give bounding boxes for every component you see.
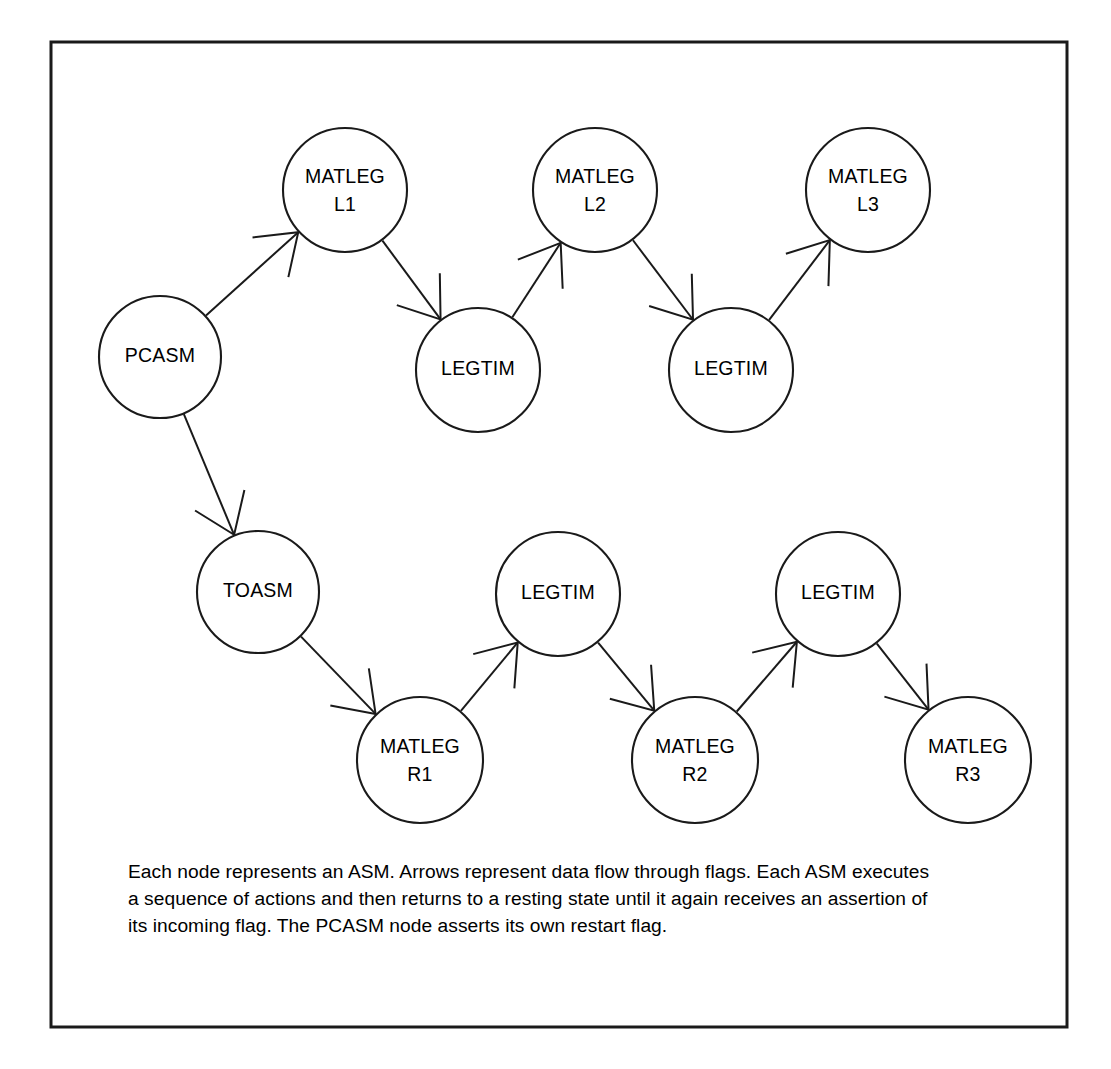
- node-matleg_r2[interactable]: MATLEGR2: [632, 697, 758, 823]
- edge-legtim-l2-to-matleg-l3-line: [769, 240, 830, 320]
- node-pcasm[interactable]: PCASM: [99, 296, 221, 418]
- node-matleg_r1[interactable]: MATLEGR1: [357, 697, 483, 823]
- node-matleg_r2-label-line2: R2: [682, 763, 707, 785]
- node-matleg_l2-label-line2: L2: [584, 193, 606, 215]
- node-legtim_r1[interactable]: LEGTIM: [496, 532, 620, 656]
- node-legtim_r2-label-line1: LEGTIM: [801, 581, 875, 603]
- node-matleg_l1[interactable]: MATLEGL1: [283, 128, 407, 252]
- edge-pcasm-to-matleg-l1-line: [206, 232, 298, 315]
- edge-legtim-l1-to-matleg-l2: [512, 243, 562, 317]
- node-legtim_l1-label-line1: LEGTIM: [441, 357, 515, 379]
- edge-matleg-r1-to-legtim-r1-line: [461, 642, 518, 710]
- node-matleg_l3-label-line2: L3: [857, 193, 879, 215]
- node-matleg_r3[interactable]: MATLEGR3: [905, 697, 1031, 823]
- node-legtim_l2-label-line1: LEGTIM: [694, 357, 768, 379]
- edge-legtim-l1-to-matleg-l2-line: [512, 243, 560, 317]
- node-matleg_l1-label-line2: L1: [334, 193, 356, 215]
- edge-matleg-l1-to-legtim-l1-arrowhead: [397, 273, 441, 319]
- caption-line-3: its incoming flag. The PCASM node assert…: [128, 915, 667, 936]
- edge-legtim-r2-to-matleg-r3-line: [877, 644, 929, 710]
- edge-toasm-to-matleg-r1: [301, 637, 376, 714]
- node-matleg_l3[interactable]: MATLEGL3: [806, 128, 930, 252]
- edge-pcasm-to-toasm: [184, 414, 245, 535]
- node-matleg_l2[interactable]: MATLEGL2: [533, 128, 657, 252]
- caption-line-2: a sequence of actions and then returns t…: [128, 888, 928, 909]
- edge-matleg-l1-to-legtim-l1: [382, 241, 440, 320]
- node-matleg_r1-circle[interactable]: [357, 697, 483, 823]
- node-matleg_r2-label-line1: MATLEG: [655, 735, 735, 757]
- caption-line-1: Each node represents an ASM. Arrows repr…: [128, 861, 929, 882]
- edge-pcasm-to-toasm-arrowhead: [195, 490, 244, 535]
- edge-matleg-l1-to-legtim-l1-line: [382, 241, 440, 320]
- node-matleg_l1-label-line1: MATLEG: [305, 165, 385, 187]
- node-legtim_l1[interactable]: LEGTIM: [416, 308, 540, 432]
- node-matleg_l2-label-line1: MATLEG: [555, 165, 635, 187]
- node-matleg_r1-label-line2: R1: [407, 763, 432, 785]
- node-legtim_l2[interactable]: LEGTIM: [669, 308, 793, 432]
- edge-pcasm-to-toasm-line: [184, 414, 234, 535]
- edge-legtim-r2-to-matleg-r3: [877, 644, 929, 710]
- node-toasm-label-line1: TOASM: [223, 579, 293, 601]
- node-matleg_l3-label-line1: MATLEG: [828, 165, 908, 187]
- edge-legtim-l2-to-matleg-l3: [769, 240, 830, 320]
- node-legtim_r2[interactable]: LEGTIM: [776, 532, 900, 656]
- node-matleg_r1-label-line1: MATLEG: [380, 735, 460, 757]
- edge-matleg-l2-to-legtim-l2-line: [633, 240, 693, 319]
- nodes-layer: PCASMMATLEGL1LEGTIMMATLEGL2LEGTIMMATLEGL…: [99, 128, 1031, 823]
- edge-legtim-l2-to-matleg-l3-arrowhead: [786, 240, 830, 286]
- node-matleg_r2-circle[interactable]: [632, 697, 758, 823]
- node-matleg_r3-label-line2: R3: [955, 763, 980, 785]
- edge-legtim-r1-to-matleg-r2: [598, 643, 654, 711]
- edge-matleg-l2-to-legtim-l2: [633, 240, 693, 319]
- figure-caption: Each node represents an ASM. Arrows repr…: [128, 861, 929, 936]
- node-matleg_l1-circle[interactable]: [283, 128, 407, 252]
- edge-matleg-r1-to-legtim-r1: [461, 642, 518, 710]
- edge-matleg-r2-to-legtim-r2-line: [737, 642, 797, 712]
- edge-legtim-r1-to-matleg-r2-line: [598, 643, 654, 711]
- node-toasm[interactable]: TOASM: [197, 531, 319, 653]
- node-pcasm-label-line1: PCASM: [125, 344, 195, 366]
- node-matleg_r3-label-line1: MATLEG: [928, 735, 1008, 757]
- asm-dataflow-diagram: PCASMMATLEGL1LEGTIMMATLEGL2LEGTIMMATLEGL…: [0, 0, 1111, 1069]
- node-matleg_l2-circle[interactable]: [533, 128, 657, 252]
- edge-matleg-r2-to-legtim-r2: [737, 642, 797, 712]
- edge-pcasm-to-matleg-l1: [206, 232, 298, 315]
- node-legtim_r1-label-line1: LEGTIM: [521, 581, 595, 603]
- figure-root: PCASMMATLEGL1LEGTIMMATLEGL2LEGTIMMATLEGL…: [0, 0, 1111, 1069]
- edge-matleg-l2-to-legtim-l2-arrowhead: [649, 274, 693, 320]
- node-matleg_r3-circle[interactable]: [905, 697, 1031, 823]
- node-matleg_l3-circle[interactable]: [806, 128, 930, 252]
- edge-toasm-to-matleg-r1-line: [301, 637, 376, 714]
